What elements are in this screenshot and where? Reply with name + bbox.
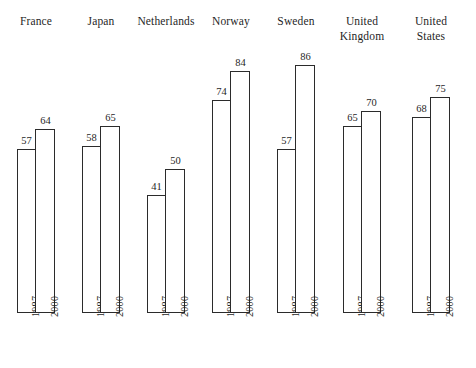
bar xyxy=(295,65,315,313)
bar-value-label: 75 xyxy=(423,83,458,94)
year-tick-label: 2000 xyxy=(180,296,190,317)
year-tick-label: 2000 xyxy=(310,296,320,317)
bar xyxy=(277,149,296,313)
bar-group: United Kingdom651987702000 xyxy=(343,0,381,368)
bar xyxy=(343,126,362,313)
bar xyxy=(165,169,185,313)
bar-value-label: 84 xyxy=(223,57,258,68)
bar-group: Netherlands411987502000 xyxy=(147,0,185,368)
bar-group: France571987642000 xyxy=(17,0,55,368)
year-tick-label: 2000 xyxy=(50,296,60,317)
year-tick-label: 2000 xyxy=(376,296,386,317)
bar xyxy=(100,126,120,313)
bar-value-label: 65 xyxy=(93,112,128,123)
bar-group: Norway741987842000 xyxy=(212,0,250,368)
category-label: United States xyxy=(384,14,476,43)
bar-value-label: 50 xyxy=(158,155,193,166)
bar xyxy=(35,129,55,313)
bar xyxy=(82,146,101,313)
bar xyxy=(212,100,231,313)
year-tick-label: 2000 xyxy=(245,296,255,317)
bar xyxy=(230,71,250,313)
grouped-bar-chart: France571987642000Japan581987652000Nethe… xyxy=(0,0,476,368)
bar xyxy=(361,111,381,313)
year-tick-label: 2000 xyxy=(115,296,125,317)
bar-value-label: 86 xyxy=(288,51,323,62)
bar xyxy=(430,97,450,313)
year-tick-label: 2000 xyxy=(445,296,455,317)
bar-group: Japan581987652000 xyxy=(82,0,120,368)
bar-value-label: 64 xyxy=(28,115,63,126)
bar-value-label: 70 xyxy=(354,97,389,108)
bar xyxy=(412,117,431,313)
bar-group: Sweden571987862000 xyxy=(277,0,315,368)
bar-group: United States681987752000 xyxy=(412,0,450,368)
bar xyxy=(17,149,36,313)
